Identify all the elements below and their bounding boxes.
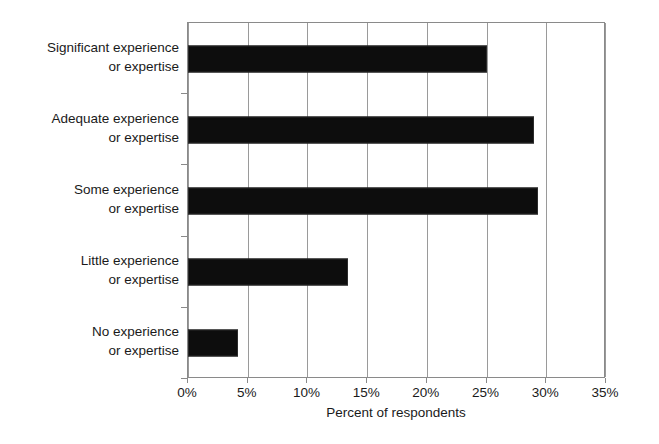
bar-significant-experience[interactable] bbox=[188, 45, 487, 72]
category-label-line-2: or expertise bbox=[14, 341, 179, 360]
x-axis-tick bbox=[366, 378, 367, 383]
bar-row-little bbox=[188, 237, 604, 308]
bar-row-significant bbox=[188, 23, 604, 94]
x-axis-tick-label: 30% bbox=[515, 385, 575, 400]
category-label-no-experience: No experience or expertise bbox=[14, 322, 179, 360]
bar-some-experience[interactable] bbox=[188, 187, 538, 214]
category-label-line-1: Significant experience bbox=[14, 38, 179, 57]
category-label-line-1: No experience bbox=[14, 322, 179, 341]
category-label-significant: Significant experience or expertise bbox=[14, 38, 179, 76]
category-label-line-1: Little experience bbox=[14, 251, 179, 270]
bar-adequate-experience[interactable] bbox=[188, 116, 534, 143]
category-label-line-2: or expertise bbox=[14, 128, 179, 147]
category-label-some: Some experience or expertise bbox=[14, 180, 179, 218]
x-axis-tick-label: 35% bbox=[575, 385, 635, 400]
category-label-line-1: Some experience bbox=[14, 180, 179, 199]
plot-area bbox=[187, 22, 605, 378]
x-axis-tick bbox=[486, 378, 487, 383]
bar-row-adequate bbox=[188, 94, 604, 165]
x-axis-tick bbox=[187, 378, 188, 383]
x-axis-tick bbox=[605, 378, 606, 383]
chart-page: Significant experience or expertise Adeq… bbox=[0, 0, 659, 444]
x-axis-tick-label: 20% bbox=[396, 385, 456, 400]
x-axis-tick-label: 10% bbox=[276, 385, 336, 400]
category-label-line-2: or expertise bbox=[14, 270, 179, 289]
x-axis-title: Percent of respondents bbox=[187, 405, 605, 420]
category-label-adequate: Adequate experience or expertise bbox=[14, 109, 179, 147]
bar-no-experience[interactable] bbox=[188, 330, 238, 357]
x-axis-tick-label: 15% bbox=[336, 385, 396, 400]
x-axis-tick bbox=[306, 378, 307, 383]
x-axis-tick-label: 25% bbox=[456, 385, 516, 400]
category-label-line-2: or expertise bbox=[14, 57, 179, 76]
bar-row-some bbox=[188, 165, 604, 236]
x-axis-tick bbox=[426, 378, 427, 383]
x-axis-tick-label: 5% bbox=[217, 385, 277, 400]
bar-little-experience[interactable] bbox=[188, 259, 348, 286]
x-axis-tick-label: 0% bbox=[157, 385, 217, 400]
x-axis-tick bbox=[545, 378, 546, 383]
x-axis-tick bbox=[247, 378, 248, 383]
category-label-little: Little experience or expertise bbox=[14, 251, 179, 289]
category-label-line-2: or expertise bbox=[14, 199, 179, 218]
bar-row-no-experience bbox=[188, 308, 604, 379]
gridline-35pct bbox=[605, 23, 606, 377]
category-label-line-1: Adequate experience bbox=[14, 109, 179, 128]
